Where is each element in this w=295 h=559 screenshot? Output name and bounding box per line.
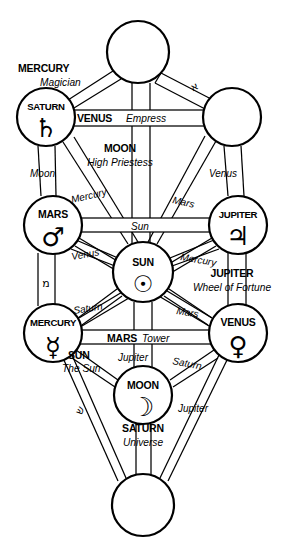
path-label-mercury-upper: Mercury [70,186,109,205]
tree-of-life-canvas: א מ ש SATURN ♄ JUPITER ♃ MARS ♂ [0,0,295,559]
venus-glyph: ♀ [228,331,247,361]
label-planet-mercury: MERCURY [18,62,69,74]
netzach-planet-label: VENUS [220,316,255,328]
label-tarot-magician: Magician [40,77,81,88]
chokmah-circle[interactable] [203,88,261,146]
sefira-binah-saturn[interactable]: SATURN ♄ [17,88,75,146]
path-label-venus-right: Venus [209,168,237,179]
hebrew-letter-shin: ש [72,404,87,417]
binah-planet-label: SATURN [27,101,65,112]
tiphareth-planet-label: SUN [132,256,154,268]
sefira-chesed-jupiter[interactable]: JUPITER ♃ [209,196,267,254]
label-moon-high-priestess: MOON High Priestess [87,142,153,168]
sefira-kether[interactable] [107,21,169,83]
saturn-glyph: ♄ [34,113,57,143]
path-chesed-netzach [228,253,246,306]
label-tarot-tower: Tower [142,333,170,344]
moon-glyph: ☽ [131,392,154,422]
sefira-malkuth[interactable] [112,474,174,536]
path-label-moon-left: Moon [30,168,55,179]
path-label-sun-band: Sun [131,221,149,232]
label-planet-mars-band: MARS [107,332,137,344]
label-tarot-the-sun: The Sun [62,363,101,374]
sefira-chokmah[interactable] [203,88,261,146]
hod-planet-label: MERCURY [30,317,77,328]
path-label-mars-lower: Mars [176,305,200,319]
label-jupiter-wheel: JUPITER Wheel of Fortune [193,267,271,293]
path-label-saturn-yesod: Saturn [172,355,203,372]
path-kether-chokmah [155,73,213,110]
tree-of-life-diagram: א מ ש SATURN ♄ JUPITER ♃ MARS ♂ [0,0,295,559]
label-tarot-high-priestess: High Priestess [87,157,153,168]
kether-circle[interactable] [107,21,169,83]
malkuth-circle[interactable] [112,474,174,536]
label-tarot-wheel-of-fortune: Wheel of Fortune [193,282,271,293]
path-label-jupiter-malkuth: Jupiter [177,403,209,414]
chesed-planet-label: JUPITER [219,209,258,220]
label-tarot-empress: Empress [126,113,166,124]
sefira-yesod-moon[interactable]: MOON ☽ [114,366,172,424]
label-tarot-universe: Universe [123,437,164,448]
path-label-venus-mid: Venus [70,246,99,262]
path-label-jupiter-yesod: Jupiter [117,352,149,363]
label-planet-sun: SUN [68,349,90,361]
geburah-planet-label: MARS [38,208,68,220]
sefira-netzach-venus[interactable]: VENUS ♀ [209,304,267,362]
path-label-saturn-lower: Saturn [73,300,104,316]
mars-glyph: ♂ [41,222,64,252]
path-label-mercury-mid: Mercury [180,251,218,268]
label-planet-venus-band: VENUS [77,112,112,124]
yesod-planet-label: MOON [127,379,159,391]
label-planet-jupiter: JUPITER [211,267,255,279]
label-sun-the-sun: SUN The Sun [62,349,101,374]
jupiter-glyph: ♃ [226,221,249,251]
label-planet-moon: MOON [104,142,136,154]
mercury-glyph: ☿ [45,332,61,362]
sefira-tiphareth-sun[interactable]: SUN ☉ [113,242,173,302]
hebrew-letter-mem: מ [42,277,49,290]
label-planet-saturn: SATURN [122,422,164,434]
sun-glyph: ☉ [133,271,154,297]
label-mercury-magician: MERCURY Magician [18,62,81,88]
label-saturn-universe: SATURN Universe [122,422,164,448]
path-label-mars-upper: Mars [172,194,196,210]
